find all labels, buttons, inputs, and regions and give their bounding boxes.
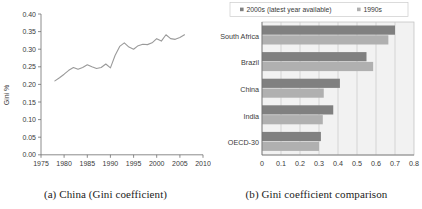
- legend-swatch-1990s: [357, 8, 361, 12]
- bar-india-2000s: [262, 105, 333, 114]
- y-axis-title: Gini %: [3, 85, 10, 106]
- y-tick-label: 0.25: [22, 63, 36, 70]
- x-axis-tick-labels: 1975 1980 1985 1990 1995 2000 2005 2010: [33, 160, 211, 167]
- x-tick-label: 0: [260, 159, 264, 168]
- panel-a-china-gini: Gini % 0.40 0.35 0.30 0.25 0.20 0.15 0.1…: [0, 0, 211, 209]
- y-axis-tick-labels: 0.40 0.35 0.30 0.25 0.20 0.15 0.10 0.05 …: [22, 11, 36, 159]
- category-label: Brazil: [241, 58, 259, 67]
- category-labels: South Africa Brazil China India OECD-30: [220, 32, 259, 147]
- x-tick-label: 0.6: [371, 159, 381, 168]
- bar-brazil-1990s: [262, 62, 373, 71]
- y-tick-label: 0.05: [22, 134, 36, 141]
- figure-container: Gini % 0.40 0.35 0.30 0.25 0.20 0.15 0.1…: [0, 0, 422, 209]
- bar-china-1990s: [262, 89, 324, 98]
- line-chart-china-gini: Gini % 0.40 0.35 0.30 0.25 0.20 0.15 0.1…: [0, 0, 211, 185]
- bar-south-africa-2000s: [262, 26, 395, 35]
- x-tick-label: 2000: [149, 160, 165, 167]
- category-label: South Africa: [220, 32, 259, 41]
- y-tick-label: 0.40: [22, 11, 36, 18]
- legend-label-2000s: 2000s (latest year available): [247, 6, 332, 14]
- x-tick-label: 0.8: [409, 159, 419, 168]
- x-tick-label: 0.4: [333, 159, 343, 168]
- x-tick-label: 0.1: [276, 159, 286, 168]
- panel-a-caption: (a) China (Gini coefficient): [0, 188, 211, 200]
- x-tick-label: 2005: [172, 160, 188, 167]
- x-tick-label: 0.2: [295, 159, 305, 168]
- legend-swatch-2000s: [240, 8, 244, 12]
- bar-brazil-2000s: [262, 52, 367, 61]
- y-tick-label: 0.15: [22, 99, 36, 106]
- panel-b-gini-comparison: 2000s (latest year available) 1990s Sout…: [211, 0, 422, 209]
- y-tick-label: 0.30: [22, 46, 36, 53]
- bar-china-2000s: [262, 79, 340, 88]
- y-tick-label: 0.10: [22, 116, 36, 123]
- x-tick-label: 1980: [56, 160, 72, 167]
- china-gini-line: [55, 35, 185, 81]
- x-tick-label: 0.5: [352, 159, 362, 168]
- x-tick-label: 1975: [33, 160, 49, 167]
- bar-india-1990s: [262, 115, 323, 124]
- legend-label-1990s: 1990s: [364, 6, 383, 13]
- x-tick-label: 1995: [126, 160, 142, 167]
- x-axis-ticks: [41, 155, 203, 158]
- x-tick-label: 1990: [103, 160, 119, 167]
- category-label: China: [240, 85, 259, 94]
- bar-chart-gini-comparison: 2000s (latest year available) 1990s Sout…: [211, 0, 422, 185]
- x-tick-label: 0.7: [390, 159, 400, 168]
- bar-oecd-30-2000s: [262, 132, 321, 141]
- y-tick-label: 0.00: [22, 151, 36, 158]
- category-label: India: [243, 112, 259, 121]
- bar-south-africa-1990s: [262, 35, 388, 44]
- x-tick-label: 1985: [80, 160, 96, 167]
- panel-b-caption: (b) Gini coefficient comparison: [211, 188, 422, 200]
- y-axis-ticks: [38, 14, 41, 155]
- category-label: OECD-30: [228, 138, 259, 147]
- y-tick-label: 0.35: [22, 28, 36, 35]
- x-tick-label: 2010: [195, 160, 211, 167]
- x-axis-tick-labels: 0 0.1 0.2 0.3 0.4 0.5 0.6 0.7 0.8: [260, 159, 419, 168]
- x-tick-label: 0.3: [314, 159, 324, 168]
- bar-oecd-30-1990s: [262, 142, 319, 151]
- y-tick-label: 0.20: [22, 81, 36, 88]
